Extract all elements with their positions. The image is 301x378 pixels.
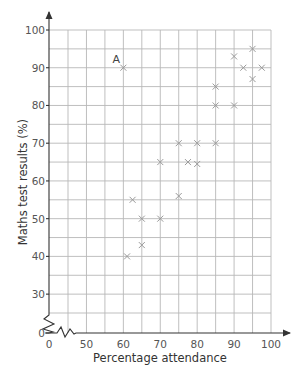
scatter-chart: 05060708090100030405060708090100 A Perce… [0, 0, 301, 378]
annotations: A [113, 53, 121, 66]
y-axis-line [43, 12, 54, 333]
y-tick-label: 0 [38, 327, 45, 339]
axes [43, 11, 291, 337]
x-axis-line [45, 327, 290, 337]
point-label-annotation: A [113, 53, 121, 66]
grid [49, 30, 271, 333]
y-tick-label: 40 [32, 250, 45, 262]
x-tick-label: 80 [190, 338, 203, 350]
x-axis-title: Percentage attendance [93, 351, 227, 365]
y-tick-label: 80 [32, 99, 45, 111]
y-tick-label: 100 [25, 24, 45, 36]
y-tick-label: 90 [32, 62, 45, 74]
tick-labels: 05060708090100030405060708090100 [25, 24, 281, 350]
x-tick-label: 0 [46, 338, 53, 350]
y-axis-arrow-icon [46, 11, 53, 19]
x-axis-arrow-icon [283, 330, 291, 337]
x-tick-label: 50 [80, 338, 93, 350]
x-tick-label: 100 [261, 338, 281, 350]
x-tick-label: 90 [227, 338, 240, 350]
x-tick-label: 60 [117, 338, 130, 350]
y-tick-label: 60 [32, 175, 45, 187]
y-tick-label: 70 [32, 137, 45, 149]
y-tick-label: 30 [32, 288, 45, 300]
y-axis-title: Maths test results (%) [16, 119, 30, 245]
y-tick-label: 50 [32, 213, 45, 225]
x-tick-label: 70 [154, 338, 167, 350]
